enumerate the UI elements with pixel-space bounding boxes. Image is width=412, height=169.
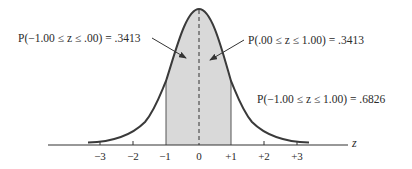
tick-label-plus1: +1 [225, 151, 237, 162]
annotation-total: P(−1.00 ≤ z ≤ 1.00) = .6826 [257, 94, 385, 106]
annotation-right: P(.00 ≤ z ≤ 1.00) = .3413 [248, 35, 364, 47]
normal-curve-diagram [0, 0, 412, 169]
annotation-left: P(−1.00 ≤ z ≤ .00) = .3413 [18, 33, 140, 45]
tick-label-minus3: −3 [94, 151, 106, 162]
z-axis-label: z [352, 137, 357, 149]
tick-label-minus1: −1 [159, 151, 171, 162]
tick-label-minus2: −2 [127, 151, 139, 162]
tick-label-zero: 0 [196, 151, 202, 162]
tick-label-plus2: +2 [258, 151, 270, 162]
tick-label-plus3: +3 [291, 151, 303, 162]
